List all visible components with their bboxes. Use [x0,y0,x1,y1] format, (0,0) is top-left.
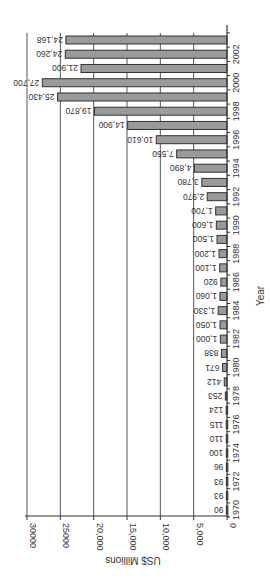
value-tick-label: 30000 [28,523,38,548]
value-tick-label: 25000 [61,523,71,548]
bar-value-label: 1,100 [195,263,217,273]
bar [66,36,227,44]
bar-value-label: 3,780 [177,177,199,187]
bar [194,164,227,172]
year-label: 1972 [231,471,241,491]
bar [177,150,227,158]
year-label: 1998 [231,101,241,121]
bar [220,335,227,343]
bar-value-label: 1,200 [194,249,216,259]
bar [221,278,227,286]
bar-value-label: 96 [214,462,224,472]
bar [65,50,227,58]
bar [217,235,227,243]
bar-value-label: 100 [209,448,223,458]
bar-value-label: 1,700 [191,206,213,216]
bar-value-label: 1,500 [192,234,214,244]
value-tick-label: 20,000 [95,523,105,551]
year-label: 1984 [231,301,241,321]
bar [81,64,227,72]
bar [156,136,227,144]
year-label: 1986 [231,272,241,292]
year-label: 1978 [231,386,241,406]
value-tick-label: 15,000 [128,523,138,551]
gridlines [27,33,194,516]
bar [57,93,227,101]
bar [42,79,227,87]
bar [207,193,227,201]
bar-value-label: 124 [209,405,223,415]
year-label: 1970 [231,500,241,520]
bar-value-label: 671 [205,363,219,373]
bar [220,321,227,329]
bar-value-label: 838 [204,348,218,358]
bar-value-label: 21,900 [52,63,78,73]
year-label: 1992 [231,187,241,207]
value-tick-label: 0 [228,523,238,528]
year-label: 1974 [231,443,241,463]
bar-value-label: 1,000 [196,334,218,344]
x-axis-title: Year [255,285,266,306]
bar-value-label: 1,600 [192,220,214,230]
y-axis-title: US$ Millions [105,555,161,566]
year-label: 1988 [231,244,241,264]
bar-value-label: 4,890 [170,163,192,173]
year-label: 1994 [231,158,241,178]
bar-value-label: 253 [208,391,222,401]
bar [223,364,227,372]
bar-value-label: 920 [203,277,217,287]
bar-value-label: 110 [209,434,223,444]
year-label: 2002 [231,44,241,64]
bar [95,107,227,115]
value-tick-label: 10,000 [161,523,171,551]
bar-value-label: 1,060 [195,291,217,301]
value-tick-label: 5,000 [195,523,205,546]
bar [202,178,227,186]
bar-value-label: 14,900 [98,120,124,130]
bar [218,307,227,315]
bar-value-label: 1,050 [195,320,217,330]
bar-chart: 05,00010,00015,00020,0002500030000909393… [0,0,270,586]
bar-value-label: 19,870 [65,106,91,116]
bar [220,264,227,272]
bar-value-label: 24,260 [36,49,62,59]
bar [221,349,227,357]
bar-value-label: 24,168 [37,35,63,45]
year-label: 1982 [231,329,241,349]
bar [216,221,227,229]
year-label: 2000 [231,73,241,93]
bar-value-label: 10,610 [127,135,153,145]
bar-value-label: 25,430 [28,92,54,102]
bar [219,250,227,258]
year-label: 1976 [231,415,241,435]
bar [216,207,227,215]
year-label: 1996 [231,130,241,150]
bar-value-label: 412 [207,377,221,387]
bar-value-label: 93 [214,477,224,487]
year-label: 1980 [231,358,241,378]
bar-value-label: 90 [214,505,224,515]
bar-value-label: 27,700 [13,78,39,88]
year-label: 1990 [231,215,241,235]
bar-value-label: 1,330 [194,306,216,316]
bar-value-label: 115 [209,420,223,430]
bar-value-label: 2,970 [183,192,205,202]
bar [220,292,227,300]
bar [128,121,227,129]
bar-value-label: 7,550 [152,149,174,159]
bar-value-label: 93 [214,491,224,501]
